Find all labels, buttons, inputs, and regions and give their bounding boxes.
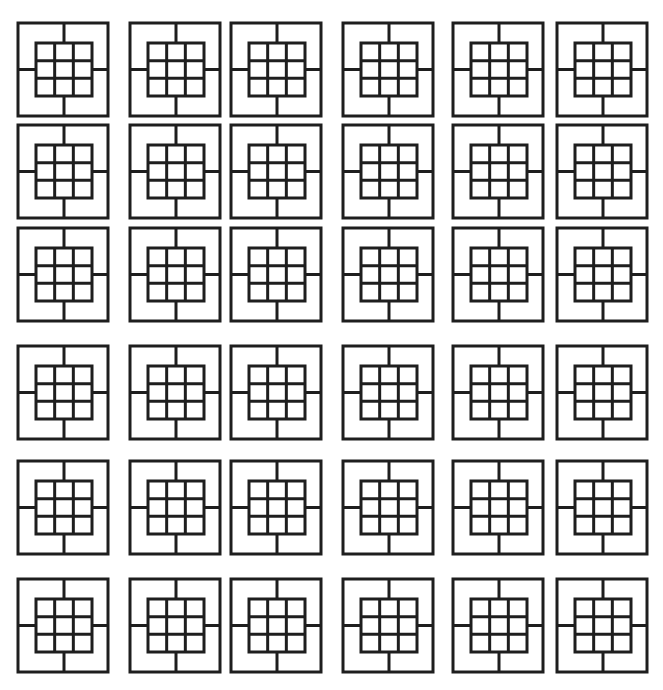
- square-grid-icon: [557, 228, 647, 321]
- square-grid-icon: [343, 125, 433, 218]
- pattern-tile: [130, 228, 220, 321]
- square-grid-icon: [18, 125, 108, 218]
- pattern-tile: [231, 346, 321, 439]
- pattern-tile: [18, 346, 108, 439]
- square-grid-icon: [557, 23, 647, 116]
- square-grid-icon: [130, 579, 220, 672]
- pattern-tile: [343, 228, 433, 321]
- square-grid-icon: [343, 579, 433, 672]
- square-grid-icon: [343, 23, 433, 116]
- square-grid-icon: [130, 346, 220, 439]
- square-grid-icon: [343, 228, 433, 321]
- square-grid-icon: [130, 125, 220, 218]
- square-grid-icon: [231, 579, 321, 672]
- pattern-tile: [453, 23, 543, 116]
- square-grid-icon: [557, 346, 647, 439]
- pattern-tile: [557, 461, 647, 554]
- pattern-tile: [130, 346, 220, 439]
- square-grid-icon: [557, 461, 647, 554]
- square-grid-icon: [453, 228, 543, 321]
- square-grid-icon: [130, 228, 220, 321]
- square-grid-icon: [18, 346, 108, 439]
- pattern-tile: [453, 346, 543, 439]
- pattern-tile: [18, 228, 108, 321]
- pattern-tile: [557, 346, 647, 439]
- pattern-tile: [18, 461, 108, 554]
- pattern-tile: [130, 461, 220, 554]
- square-grid-icon: [231, 461, 321, 554]
- square-grid-icon: [453, 579, 543, 672]
- pattern-tile: [453, 461, 543, 554]
- square-grid-icon: [453, 461, 543, 554]
- square-grid-icon: [231, 346, 321, 439]
- pattern-tile: [130, 125, 220, 218]
- pattern-tile: [453, 579, 543, 672]
- pattern-tile: [231, 228, 321, 321]
- square-grid-icon: [557, 125, 647, 218]
- square-grid-icon: [343, 346, 433, 439]
- square-grid-icon: [18, 228, 108, 321]
- square-grid-icon: [453, 23, 543, 116]
- pattern-tile: [343, 125, 433, 218]
- square-grid-icon: [453, 346, 543, 439]
- square-grid-icon: [231, 23, 321, 116]
- square-grid-icon: [231, 125, 321, 218]
- pattern-tile: [343, 23, 433, 116]
- pattern-tile: [557, 228, 647, 321]
- pattern-tile: [343, 461, 433, 554]
- pattern-tile: [343, 346, 433, 439]
- square-grid-icon: [453, 125, 543, 218]
- square-grid-icon: [18, 579, 108, 672]
- square-grid-icon: [130, 461, 220, 554]
- square-grid-icon: [18, 461, 108, 554]
- pattern-tile: [130, 579, 220, 672]
- pattern-tile: [231, 125, 321, 218]
- pattern-tile: [231, 23, 321, 116]
- pattern-tile: [343, 579, 433, 672]
- pattern-tile: [231, 461, 321, 554]
- pattern-tile: [557, 579, 647, 672]
- square-grid-icon: [557, 579, 647, 672]
- pattern-tile: [18, 23, 108, 116]
- pattern-tile: [557, 125, 647, 218]
- pattern-tile: [453, 125, 543, 218]
- pattern-tile: [557, 23, 647, 116]
- pattern-tile: [453, 228, 543, 321]
- pattern-tile: [130, 23, 220, 116]
- pattern-tile: [18, 125, 108, 218]
- square-grid-icon: [343, 461, 433, 554]
- square-grid-icon: [130, 23, 220, 116]
- pattern-tile: [231, 579, 321, 672]
- square-grid-icon: [18, 23, 108, 116]
- square-grid-icon: [231, 228, 321, 321]
- pattern-tile: [18, 579, 108, 672]
